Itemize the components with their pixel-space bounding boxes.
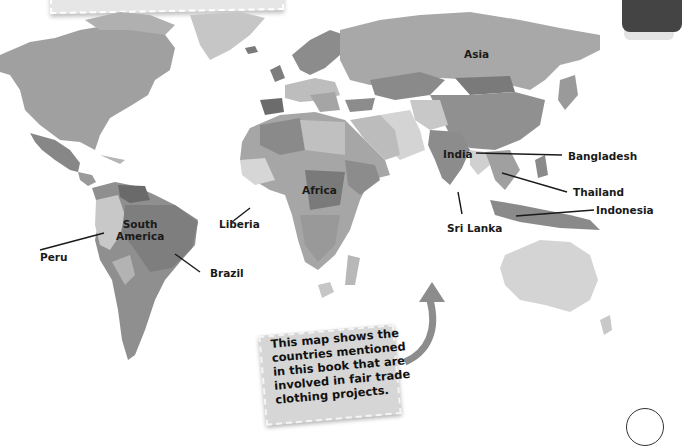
- europe: [260, 30, 345, 115]
- label-india: India: [443, 148, 473, 160]
- label-bangladesh: Bangladesh: [568, 150, 637, 162]
- label-sri-lanka: Sri Lanka: [447, 222, 502, 234]
- south-america: [92, 182, 198, 360]
- label-africa: Africa: [302, 184, 337, 196]
- label-thailand: Thailand: [573, 186, 624, 198]
- label-indonesia: Indonesia: [596, 204, 654, 216]
- australia: [500, 240, 612, 335]
- label-asia: Asia: [464, 48, 489, 60]
- page-number-circle: [626, 408, 664, 446]
- label-south-america: South America: [116, 218, 164, 242]
- caption-text: This map shows the countries mentioned i…: [270, 325, 416, 407]
- label-liberia: Liberia: [219, 218, 260, 230]
- label-peru: Peru: [40, 251, 67, 263]
- label-brazil: Brazil: [210, 267, 244, 279]
- north-america: [0, 12, 265, 186]
- madagascar: [318, 282, 334, 298]
